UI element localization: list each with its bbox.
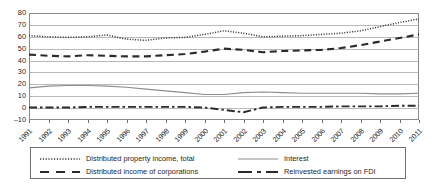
legend-column-left: Distributed property income, total Distr…: [38, 152, 233, 178]
y-axis-labels: 80706050403020100–10: [0, 13, 26, 120]
y-axis-tick-label: 30: [18, 69, 26, 76]
x-axis-labels: 1991199219931994199519961997199819992000…: [0, 120, 435, 146]
x-axis-tick-label: 2005: [286, 127, 307, 148]
x-axis-tick-label: 1992: [32, 127, 53, 148]
x-axis-tick-label: 2006: [305, 127, 326, 148]
x-axis-tick-label: 1991: [13, 127, 34, 148]
y-axis-tick-label: 80: [18, 9, 26, 16]
legend-item-interest: Interest: [236, 152, 404, 165]
legend-swatch-dotted-icon: [38, 153, 82, 165]
x-axis-tick-label: 2001: [208, 127, 229, 148]
series-lines: [29, 13, 419, 120]
x-axis-tick-label: 2009: [364, 127, 385, 148]
y-axis-tick-label: 40: [18, 57, 26, 64]
legend-swatch-solid-icon: [236, 153, 280, 165]
series-line-1: [29, 34, 419, 56]
x-axis-tick-label: 1998: [149, 127, 170, 148]
legend-label: Distributed income of corporations: [82, 168, 198, 176]
series-line-0: [29, 19, 419, 40]
x-axis-tick-label: 1995: [91, 127, 112, 148]
series-line-2: [29, 86, 419, 95]
y-axis-tick-label: 50: [18, 45, 26, 52]
legend-label: Distributed property income, total: [82, 155, 194, 163]
chart-figure: 80706050403020100–10 1991199219931994199…: [0, 0, 435, 186]
y-axis-tick-label: 10: [18, 93, 26, 100]
legend-label: Reinvested earnings on FDI: [280, 168, 376, 176]
x-axis-tick-label: 1996: [110, 127, 131, 148]
legend-swatch-dashed-icon: [38, 166, 82, 178]
x-axis-tick-label: 2010: [383, 127, 404, 148]
x-axis-tick-label: 1997: [130, 127, 151, 148]
x-axis-tick-label: 2004: [266, 127, 287, 148]
legend-swatch-dash-dot-icon: [236, 166, 280, 178]
x-axis-tick-label: 2011: [403, 127, 424, 148]
y-axis-tick-label: 20: [18, 81, 26, 88]
legend-column-right: Interest Reinvested earnings on FDI: [236, 152, 404, 178]
y-axis-tick-label: 0: [22, 104, 26, 111]
legend-item-distributed-income-of-corporations: Distributed income of corporations: [38, 165, 233, 178]
x-axis-tick-label: 2008: [344, 127, 365, 148]
x-axis-tick-label: 1993: [52, 127, 73, 148]
x-axis-tick-label: 1994: [71, 127, 92, 148]
x-axis-tick-label: 2003: [247, 127, 268, 148]
legend-item-reinvested-earnings-on-fdi: Reinvested earnings on FDI: [236, 165, 404, 178]
chart-legend: Distributed property income, total Distr…: [30, 147, 406, 179]
legend-item-distributed-property-income-total: Distributed property income, total: [38, 152, 233, 165]
x-axis-tick-label: 2000: [188, 127, 209, 148]
x-axis-tick-label: 2002: [227, 127, 248, 148]
x-axis-tick-label: 2007: [325, 127, 346, 148]
y-axis-tick-label: 60: [18, 33, 26, 40]
legend-label: Interest: [280, 155, 309, 163]
x-axis-tick-label: 1999: [169, 127, 190, 148]
plot-area: [29, 13, 419, 120]
y-axis-tick-label: 70: [18, 21, 26, 28]
series-line-3: [29, 106, 419, 113]
